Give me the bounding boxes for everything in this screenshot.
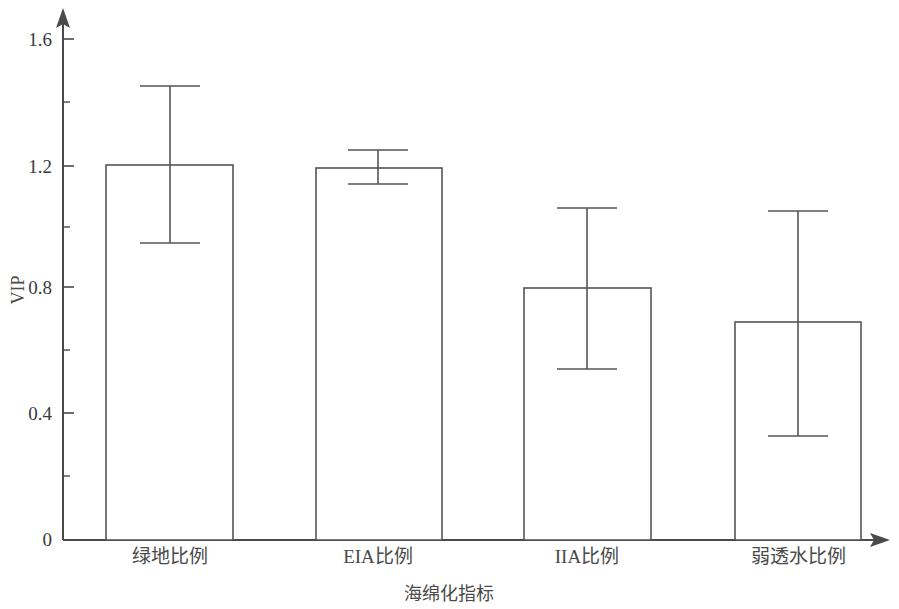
y-tick-label-1: 0.4	[28, 403, 52, 424]
bar-group-0[interactable]	[106, 86, 233, 540]
y-axis-title: VIP	[8, 275, 28, 304]
bar-group-2[interactable]	[524, 208, 651, 540]
chart-canvas: 0 0.4 0.8 1.2 1.6 VIP 绿地比例 EIA比例	[0, 0, 899, 609]
y-tick-label-4: 1.6	[28, 29, 52, 50]
x-tick-label-0: 绿地比例	[132, 546, 208, 567]
bar-group-3[interactable]	[735, 211, 861, 540]
bar-1[interactable]	[316, 168, 442, 540]
bar-group-1[interactable]	[316, 150, 442, 540]
x-tick-label-3: 弱透水比例	[751, 546, 846, 567]
x-axis-ticks	[170, 530, 798, 540]
x-tick-label-1: EIA比例	[343, 546, 413, 567]
y-tick-label-2: 0.8	[28, 277, 52, 298]
y-tick-label-3: 1.2	[28, 156, 52, 177]
y-axis-minor-ticks	[63, 102, 70, 476]
y-tick-label-0: 0	[43, 529, 53, 550]
x-tick-label-2: IIA比例	[555, 546, 619, 567]
y-axis-major-ticks	[63, 39, 74, 540]
x-axis-title: 海绵化指标	[404, 584, 494, 604]
bar-chart-figure: 0 0.4 0.8 1.2 1.6 VIP 绿地比例 EIA比例	[0, 0, 899, 609]
